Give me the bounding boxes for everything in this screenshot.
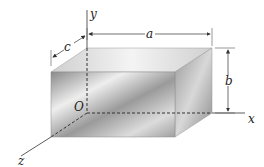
z-axis-label: z — [17, 154, 25, 167]
y-axis-label: y — [89, 7, 97, 21]
origin-label: O — [74, 100, 84, 114]
dim-a-label: a — [146, 27, 153, 41]
dim-c-line-a — [53, 50, 64, 57]
x-axis-label: x — [248, 112, 255, 126]
dim-c-line-b — [74, 36, 85, 43]
box-diagram: a c b y x z O — [0, 0, 264, 167]
box-front-face — [51, 72, 175, 137]
dim-b-label: b — [225, 74, 233, 88]
z-axis — [21, 137, 51, 156]
dim-c-label: c — [64, 40, 71, 54]
